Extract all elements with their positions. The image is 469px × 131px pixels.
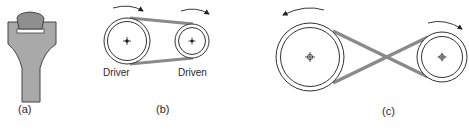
driver-label: Driver bbox=[103, 68, 130, 78]
driver-pulley bbox=[104, 18, 150, 64]
belt-drive-figure: Driver Driven (a) (b) (c) bbox=[0, 0, 469, 131]
rotation-arrow-ccw-icon bbox=[283, 8, 324, 15]
rotation-arrow-cw-icon bbox=[428, 21, 462, 29]
panel-c-crossed-belt-drive bbox=[276, 8, 467, 91]
belt-cross-2 bbox=[333, 37, 428, 83]
rotation-arrow-icon bbox=[181, 9, 209, 14]
large-pulley bbox=[276, 23, 344, 91]
groove-gap bbox=[17, 29, 44, 33]
belt-cross-1 bbox=[333, 31, 428, 77]
pulley-groove-shape bbox=[8, 22, 56, 102]
small-pulley bbox=[417, 32, 467, 82]
driven-pulley bbox=[175, 24, 209, 58]
rotation-arrow-icon bbox=[113, 6, 143, 11]
caption-b: (b) bbox=[156, 104, 169, 115]
caption-a: (a) bbox=[18, 104, 31, 115]
caption-c: (c) bbox=[382, 106, 395, 117]
vbelt-section bbox=[17, 12, 44, 29]
driven-label: Driven bbox=[178, 68, 207, 78]
panel-a-vbelt-section bbox=[8, 12, 56, 102]
panel-b-open-belt-drive bbox=[104, 6, 209, 64]
